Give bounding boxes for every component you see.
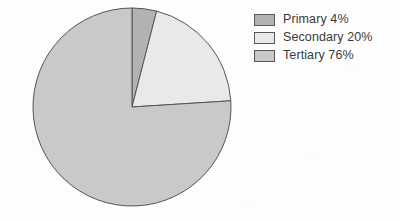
chart-legend: Primary 4% Secondary 20% Tertiary 76% [254, 12, 373, 63]
legend-label-tertiary: Tertiary 76% [283, 48, 354, 63]
pie-chart-figure: Primary 4% Secondary 20% Tertiary 76% [0, 0, 400, 221]
legend-swatch-tertiary [254, 50, 275, 62]
legend-item-tertiary[interactable]: Tertiary 76% [254, 48, 373, 63]
legend-label-primary: Primary 4% [283, 12, 349, 27]
legend-swatch-secondary [254, 32, 275, 44]
legend-swatch-primary [254, 14, 275, 26]
legend-item-primary[interactable]: Primary 4% [254, 12, 373, 27]
legend-label-secondary: Secondary 20% [283, 30, 373, 45]
pie-slice-group [33, 8, 231, 206]
legend-item-secondary[interactable]: Secondary 20% [254, 30, 373, 45]
